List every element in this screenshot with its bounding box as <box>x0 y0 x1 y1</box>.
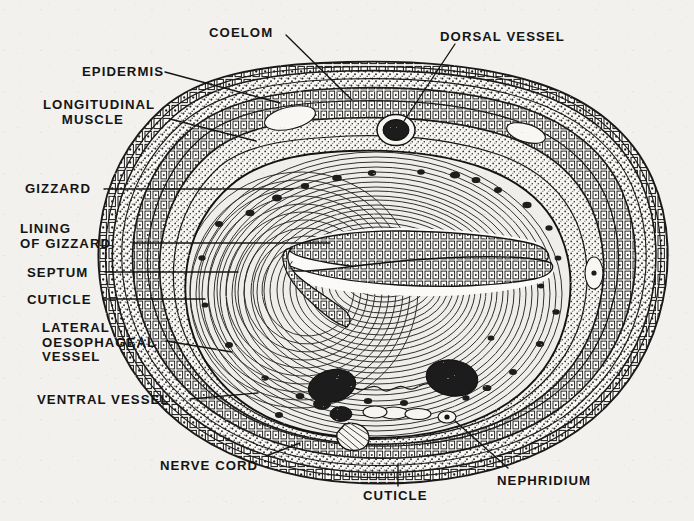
coelomic-body-3 <box>405 409 431 420</box>
figure-page: COELOMDORSAL VESSELEPIDERMISLONGITUDINAL… <box>0 0 694 521</box>
label-epidermis: EPIDERMIS <box>82 65 164 80</box>
label-longitudinal-muscle: LONGITUDINAL MUSCLE <box>43 98 155 127</box>
label-dorsal-vessel: DORSAL VESSEL <box>440 30 565 45</box>
label-cuticle-bottom: CUTICLE <box>363 489 428 504</box>
coelomic-body-4 <box>313 398 331 410</box>
nephridium-nucleus <box>444 414 449 419</box>
label-coelom: COELOM <box>209 26 273 41</box>
ventral-vessel <box>330 407 352 422</box>
coelomic-sac-nuclei <box>591 270 596 275</box>
label-nephridium: NEPHRIDIUM <box>497 474 591 489</box>
label-nerve-cord: NERVE CORD <box>160 459 258 474</box>
coelomic-body-2 <box>363 406 387 418</box>
label-cuticle-left: CUTICLE <box>27 293 92 308</box>
label-lining-of-gizzard: LINING OF GIZZARD <box>20 222 111 251</box>
label-gizzard: GIZZARD <box>25 182 91 197</box>
dorsal-vessel <box>383 120 409 141</box>
label-lateral-oesophageal-vessel: LATERAL OESOPHAGEAL VESSEL <box>42 321 156 365</box>
label-septum: SEPTUM <box>27 266 88 281</box>
label-ventral-vessel: VENTRAL VESSEL <box>37 393 169 408</box>
